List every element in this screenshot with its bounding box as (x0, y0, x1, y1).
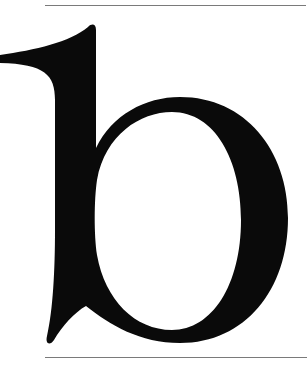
letter-b-glyph (0, 0, 307, 370)
bottom-rule (45, 357, 307, 358)
